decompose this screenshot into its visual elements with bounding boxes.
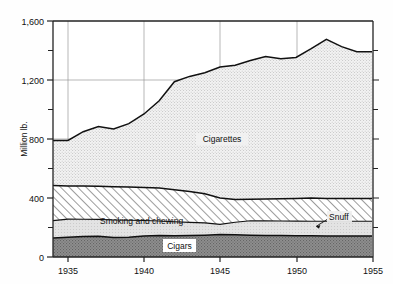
area-cigars: [53, 235, 372, 257]
y-ticks-major: [47, 21, 53, 257]
x-tick-label-1950: 1950: [287, 266, 307, 276]
y-tick-label-400: 400: [29, 194, 44, 204]
y-ticks-right: [373, 51, 379, 228]
x-tick-label-1945: 1945: [210, 266, 230, 276]
label-snuff: Snuff: [329, 212, 349, 222]
label-cigars: Cigars: [167, 241, 192, 251]
label-cigars-group: Cigars: [163, 239, 196, 252]
label-cigarettes: Cigarettes: [203, 134, 242, 144]
x-tick-label-1935: 1935: [58, 266, 78, 276]
y-axis-title: Million lb.: [19, 121, 29, 156]
y-tick-label-1600: 1,600: [21, 17, 44, 27]
chart-figure: 1,600 1,200 800 400 0 1935 1940 1945 195…: [0, 0, 393, 284]
y-tick-label-800: 800: [29, 135, 44, 145]
x-tick-label-1940: 1940: [134, 266, 154, 276]
x-tick-label-1955: 1955: [363, 266, 383, 276]
label-smoking-and-chewing: Smoking and chewing: [100, 216, 183, 226]
label-cigarettes-group: Cigarettes: [196, 133, 248, 145]
tobacco-consumption-area-chart: 1,600 1,200 800 400 0 1935 1940 1945 195…: [0, 0, 393, 284]
y-tick-label-0: 0: [39, 253, 44, 263]
x-ticks: [68, 257, 373, 262]
y-tick-label-1200: 1,200: [21, 76, 44, 86]
